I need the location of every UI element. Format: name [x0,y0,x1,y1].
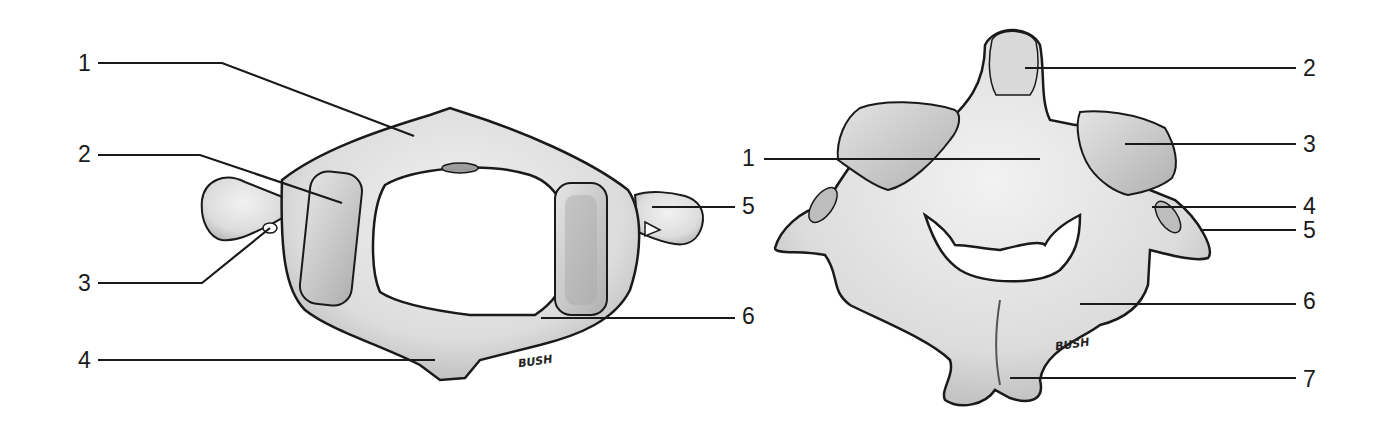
vertebrae-diagram [0,0,1388,433]
axis-vertebra [775,30,1210,405]
label-axis-2: 2 [1303,57,1316,80]
label-axis-1: 1 [742,147,755,170]
label-atlas-2: 2 [78,143,91,166]
label-axis-5: 5 [1303,219,1316,242]
label-axis-7: 7 [1303,368,1316,391]
label-axis-4: 4 [1303,195,1316,218]
axis-dens [989,31,1038,95]
atlas-vertebra [202,108,703,380]
label-axis-6: 6 [1303,290,1316,313]
leader-atlas-1 [98,63,414,136]
atlas-posterior-notch [442,163,478,173]
label-atlas-4: 4 [78,349,91,372]
label-atlas-6: 6 [742,305,755,328]
label-atlas-1: 1 [78,52,91,75]
label-atlas-3: 3 [78,272,91,295]
label-axis-3: 3 [1303,133,1316,156]
label-atlas-5: 5 [742,195,755,218]
